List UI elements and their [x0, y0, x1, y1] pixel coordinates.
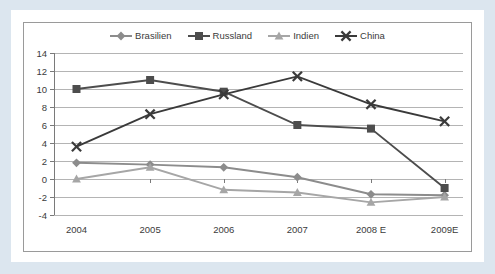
triangle-marker-icon: [268, 30, 290, 41]
square-marker-icon: [188, 30, 210, 41]
data-point: [441, 184, 449, 192]
data-point: [293, 121, 301, 129]
legend-label: Brasilien: [135, 30, 171, 41]
y-axis-label: 6: [42, 120, 47, 131]
y-axis-label: 12: [36, 66, 47, 77]
y-axis-label: -4: [39, 210, 47, 221]
y-axis-label: 4: [42, 138, 47, 149]
chart-card: BrasilienRusslandIndienChina 14121086420…: [11, 10, 484, 262]
y-axis-label: -2: [39, 192, 47, 203]
data-point: [72, 158, 81, 167]
x-axis-label: 2007: [287, 224, 308, 235]
cross-marker-icon: [335, 30, 357, 41]
data-point: [367, 125, 375, 133]
legend-item-china[interactable]: China: [335, 30, 385, 41]
plot-area: 14121086420-2-4 20042005200620072008 E20…: [54, 53, 463, 215]
legend-label: Russland: [213, 30, 253, 41]
y-axis-tick: [50, 215, 54, 216]
y-axis-label: 14: [36, 48, 47, 59]
data-point: [219, 163, 228, 172]
chart-legend: BrasilienRusslandIndienChina: [24, 30, 471, 41]
legend-item-brasilien[interactable]: Brasilien: [110, 30, 171, 41]
data-point: [72, 85, 80, 93]
x-axis-label: 2004: [66, 224, 87, 235]
y-axis-label: 2: [42, 156, 47, 167]
screenshot-root: BrasilienRusslandIndienChina 14121086420…: [0, 0, 495, 274]
diamond-marker-icon: [110, 30, 132, 41]
series-china: [72, 72, 449, 151]
y-axis-label: 0: [42, 174, 47, 185]
y-axis-label: 8: [42, 102, 47, 113]
legend-label: Indien: [293, 30, 319, 41]
gridline: [54, 215, 463, 216]
legend-item-indien[interactable]: Indien: [268, 30, 319, 41]
series-russland: [72, 76, 448, 192]
x-axis-label: 2006: [213, 224, 234, 235]
chart-frame: BrasilienRusslandIndienChina 14121086420…: [23, 22, 472, 252]
data-point: [367, 190, 376, 199]
x-axis-label: 2008 E: [356, 224, 386, 235]
legend-item-russland[interactable]: Russland: [188, 30, 253, 41]
y-axis-label: 10: [36, 84, 47, 95]
series-line: [76, 76, 444, 146]
data-point: [146, 76, 154, 84]
series-layer: [54, 53, 463, 215]
series-indien: [72, 163, 449, 206]
data-point: [72, 142, 81, 151]
x-axis-label: 2009E: [431, 224, 458, 235]
series-brasilien: [72, 158, 449, 199]
legend-label: China: [360, 30, 385, 41]
x-axis-label: 2005: [140, 224, 161, 235]
data-point: [293, 173, 302, 182]
